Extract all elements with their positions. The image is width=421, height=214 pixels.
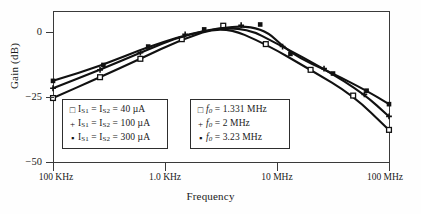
data-point-marker: [308, 67, 313, 72]
data-point-marker: [387, 128, 392, 133]
data-point-marker: [364, 88, 369, 93]
legend-bias-currents: □ IS1 = IS2 = 40 µA + IS1 = IS2 = 100 µA…: [62, 99, 168, 149]
x-tick-label-3: 100 MHz: [367, 172, 403, 182]
legend-item: ▪ IS1 = IS2 = 300 µA: [67, 131, 162, 145]
data-point-marker: [202, 27, 207, 32]
y-tick-mark-1: [46, 97, 54, 98]
data-point-marker: [258, 22, 263, 27]
x-tick-label-2: 10 MHz: [261, 172, 292, 182]
data-point-marker: [387, 102, 392, 107]
legend-center-frequencies: □ f0 = 1.331 MHz + f0 = 2 MHz ▪ f0 = 3.2…: [190, 99, 290, 149]
x-tick-label-0: 100 KHz: [39, 172, 74, 182]
data-point-marker: [51, 79, 56, 84]
data-point-marker: [146, 44, 151, 49]
data-point-marker: [351, 93, 356, 98]
y-axis-title: Gain (dB): [8, 26, 20, 106]
x-tick-mark-2: [277, 163, 278, 171]
y-tick-label-2: −50: [16, 157, 42, 167]
open-square-marker-icon: □: [195, 106, 206, 115]
legend-item-label: f0 = 2 MHz: [206, 118, 250, 130]
data-point-marker: [50, 85, 56, 91]
y-tick-mark-0: [46, 32, 54, 33]
legend-item-label: f0 = 1.331 MHz: [206, 104, 267, 116]
legend-item: □ IS1 = IS2 = 40 µA: [67, 103, 162, 117]
data-point-marker: [288, 52, 293, 57]
filled-square-marker-icon: ▪: [195, 134, 206, 143]
data-point-marker: [101, 63, 106, 68]
data-point-marker: [331, 71, 336, 76]
plus-marker-icon: +: [195, 120, 206, 129]
x-axis-title: Frequency: [0, 190, 421, 202]
plus-marker-icon: +: [67, 120, 78, 129]
x-tick-mark-3: [389, 163, 390, 171]
x-tick-label-1: 1.0 KHz: [149, 172, 181, 182]
data-point-marker: [98, 75, 103, 80]
legend-item-label: IS1 = IS2 = 300 µA: [78, 132, 150, 144]
filled-square-marker-icon: ▪: [67, 134, 78, 143]
legend-item: ▪ f0 = 3.23 MHz: [195, 131, 284, 145]
data-point-marker: [138, 56, 143, 61]
open-square-marker-icon: □: [67, 106, 78, 115]
x-tick-mark-1: [165, 163, 166, 171]
legend-item: □ f0 = 1.331 MHz: [195, 103, 284, 117]
x-tick-mark-0: [53, 163, 54, 171]
legend-item: + IS1 = IS2 = 100 µA: [67, 117, 162, 131]
legend-item-label: IS1 = IS2 = 40 µA: [78, 104, 145, 116]
legend-item: + f0 = 2 MHz: [195, 117, 284, 131]
legend-item-label: IS1 = IS2 = 100 µA: [78, 118, 150, 130]
chart-figure: 0 −25 −50 100 KHz 1.0 KHz 10 MHz 100 MHz…: [0, 0, 421, 214]
data-point-marker: [263, 42, 268, 47]
legend-item-label: f0 = 3.23 MHz: [206, 132, 262, 144]
